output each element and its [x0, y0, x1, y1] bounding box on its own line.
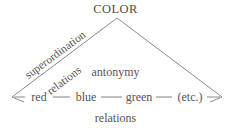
node-label-blue: blue — [69, 90, 103, 105]
diagram-canvas: COLOR superordination relations antonymy… — [0, 0, 231, 130]
right-vertex-barb — [210, 97, 222, 102]
interior-label-antonymy: antonymy — [0, 66, 231, 78]
apex-label-color: COLOR — [0, 3, 231, 16]
node-label-green: green — [120, 90, 158, 105]
bottom-caption-relations: relations — [0, 112, 231, 124]
node-label-etc: (etc.) — [170, 90, 210, 105]
node-label-red: red — [23, 90, 55, 105]
triangle-right-edge — [117, 18, 222, 97]
